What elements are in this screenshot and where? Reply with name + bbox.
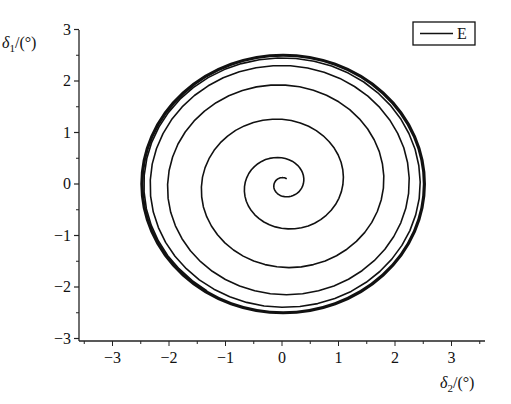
x-tick-label: −2 (160, 349, 177, 366)
legend: E (413, 22, 475, 45)
y-tick-label: −3 (54, 330, 71, 347)
y-tick-label: −1 (54, 227, 71, 244)
x-tick-label: 3 (448, 349, 456, 366)
y-tick-label: 1 (63, 124, 71, 141)
x-tick-label: −3 (104, 349, 121, 366)
y-tick-label: −2 (54, 278, 71, 295)
phase-portrait-chart: −3−2−10123 −3−2−10123 E δ1/(°) δ2/(°) (0, 0, 511, 404)
y-tick-label: 0 (63, 175, 71, 192)
x-axis: −3−2−10123 (79, 341, 485, 366)
y-axis: −3−2−10123 (54, 21, 79, 347)
legend-label-e: E (457, 25, 467, 42)
x-tick-label: 1 (335, 349, 343, 366)
x-axis-title: δ2/(°) (440, 374, 474, 394)
x-tick-label: −1 (217, 349, 234, 366)
x-tick-label: 0 (278, 349, 286, 366)
y-axis-title: δ1/(°) (2, 34, 36, 54)
y-tick-label: 3 (63, 21, 71, 38)
series-e-trajectory (142, 55, 425, 313)
x-tick-label: 2 (391, 349, 399, 366)
y-tick-label: 2 (63, 72, 71, 89)
